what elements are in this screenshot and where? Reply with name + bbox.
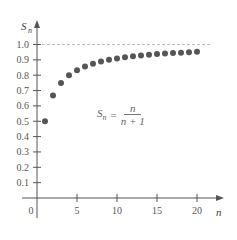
y-tick-label: 1.0 — [17, 39, 30, 50]
data-point — [114, 55, 120, 61]
y-tick-label: 0.7 — [17, 85, 30, 96]
formula-annotation: Sn = n n + 1 — [97, 102, 145, 127]
data-point — [146, 52, 152, 58]
data-point — [42, 118, 48, 124]
x-axis-arrow-icon — [216, 195, 224, 201]
data-point — [58, 80, 64, 86]
y-tick-label: 0.5 — [17, 116, 30, 127]
data-point — [50, 93, 56, 99]
data-point — [138, 52, 144, 58]
data-point — [74, 67, 80, 73]
x-tick-label: 5 — [75, 205, 80, 216]
data-point — [90, 61, 96, 67]
y-tick-label: 0.3 — [17, 146, 30, 157]
x-tick-label: 20 — [192, 205, 202, 216]
y-axis-label: S — [21, 20, 27, 32]
y-axis-arrow-icon — [34, 20, 40, 28]
data-point — [186, 49, 192, 55]
y-tick-label: 0.1 — [17, 177, 30, 188]
data-point — [162, 51, 168, 57]
x-tick-label: 15 — [152, 205, 162, 216]
y-tick-label: 0.6 — [17, 100, 30, 111]
formula-lhs: Sn — [97, 107, 107, 122]
data-point — [98, 59, 104, 65]
y-tick-label: 0.8 — [17, 70, 30, 81]
x-tick-label: 0 — [29, 205, 34, 216]
data-point — [66, 72, 72, 78]
y-tick-label: 0.9 — [17, 54, 30, 65]
y-tick-label: 0.2 — [17, 162, 30, 173]
x-tick-label: 10 — [112, 205, 122, 216]
data-point — [178, 50, 184, 56]
x-axis-label: n — [216, 206, 222, 218]
data-point — [194, 49, 200, 55]
y-tick-label: 0.4 — [17, 131, 30, 142]
formula-fraction: n n + 1 — [121, 102, 145, 127]
y-axis-label-sub: n — [28, 26, 32, 35]
data-point — [170, 50, 176, 56]
data-point — [106, 57, 112, 63]
data-point — [130, 53, 136, 59]
data-point — [122, 54, 128, 60]
data-point — [82, 63, 88, 69]
data-point — [154, 51, 160, 57]
